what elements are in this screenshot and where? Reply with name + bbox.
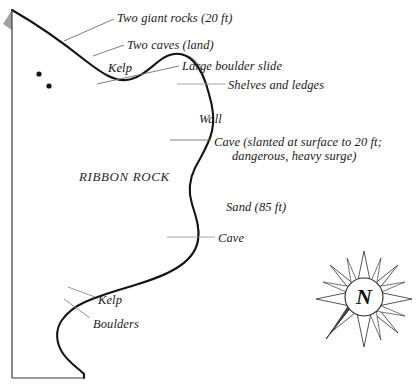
label-large-boulder-slide: Large boulder slide — [182, 59, 282, 74]
label-cave-slanted-line2: dangerous, heavy surge) — [232, 149, 357, 164]
label-ribbon-rock: RIBBON ROCK — [79, 169, 170, 184]
label-kelp-upper: Kelp — [108, 61, 132, 76]
label-cave-lower: Cave — [218, 231, 244, 246]
label-two-caves-land: Two caves (land) — [127, 38, 214, 53]
leader-line-two-giant-rocks — [64, 19, 114, 41]
label-kelp-lower: Kelp — [98, 293, 122, 308]
compass-north-letter: N — [355, 284, 373, 309]
nautical-map: N Two giant rocks (20 ft) Two caves (lan… — [0, 0, 417, 387]
compass-rose: N — [316, 251, 412, 347]
rock-marker-dot-2 — [46, 83, 51, 88]
label-two-giant-rocks: Two giant rocks (20 ft) — [117, 11, 233, 26]
label-sand-85ft: Sand (85 ft) — [226, 200, 286, 215]
compass-point-s — [357, 313, 371, 347]
label-boulders: Boulders — [93, 317, 139, 332]
label-cave-slanted-line1: Cave (slanted at surface to 20 ft; — [214, 135, 382, 150]
leader-line-two-caves — [93, 45, 124, 56]
label-shelves-and-ledges: Shelves and ledges — [228, 78, 324, 93]
label-wall: Wall — [199, 112, 222, 127]
rock-marker-dot-1 — [36, 71, 41, 76]
